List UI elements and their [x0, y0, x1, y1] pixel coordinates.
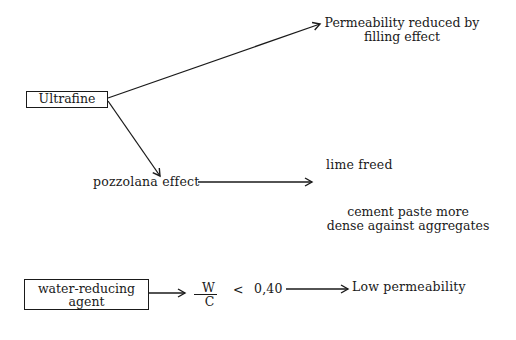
ultrafine-box: Ultrafine [26, 91, 108, 108]
arrow-ultrafine-to-pozzolana [108, 101, 160, 176]
low-permeability-label: Low permeability [352, 280, 466, 294]
water-reducing-line2: agent [25, 295, 148, 308]
ratio-value: 0,40 [254, 282, 283, 296]
cement-paste-node: cement paste more dense against aggregat… [326, 205, 490, 233]
permeability-line1: Permeability reduced by [322, 16, 482, 30]
pozzolana-effect-label: pozzolana effect [93, 175, 199, 189]
permeability-filling-node: Permeability reduced by filling effect [322, 16, 482, 44]
cement-paste-line1: cement paste more [326, 205, 490, 219]
ratio-numerator: W [194, 281, 217, 295]
water-reducing-agent-box: water-reducing agent [24, 279, 149, 310]
wc-ratio-fraction: W C [194, 281, 217, 308]
less-than-operator: < [233, 283, 244, 297]
ultrafine-label: Ultrafine [39, 91, 96, 106]
ratio-denominator: C [194, 295, 217, 308]
lime-freed-label: lime freed [326, 158, 393, 172]
cement-paste-line2: dense against aggregates [326, 219, 490, 233]
permeability-line2: filling effect [322, 30, 482, 44]
arrow-ultrafine-to-permeability [108, 24, 320, 98]
